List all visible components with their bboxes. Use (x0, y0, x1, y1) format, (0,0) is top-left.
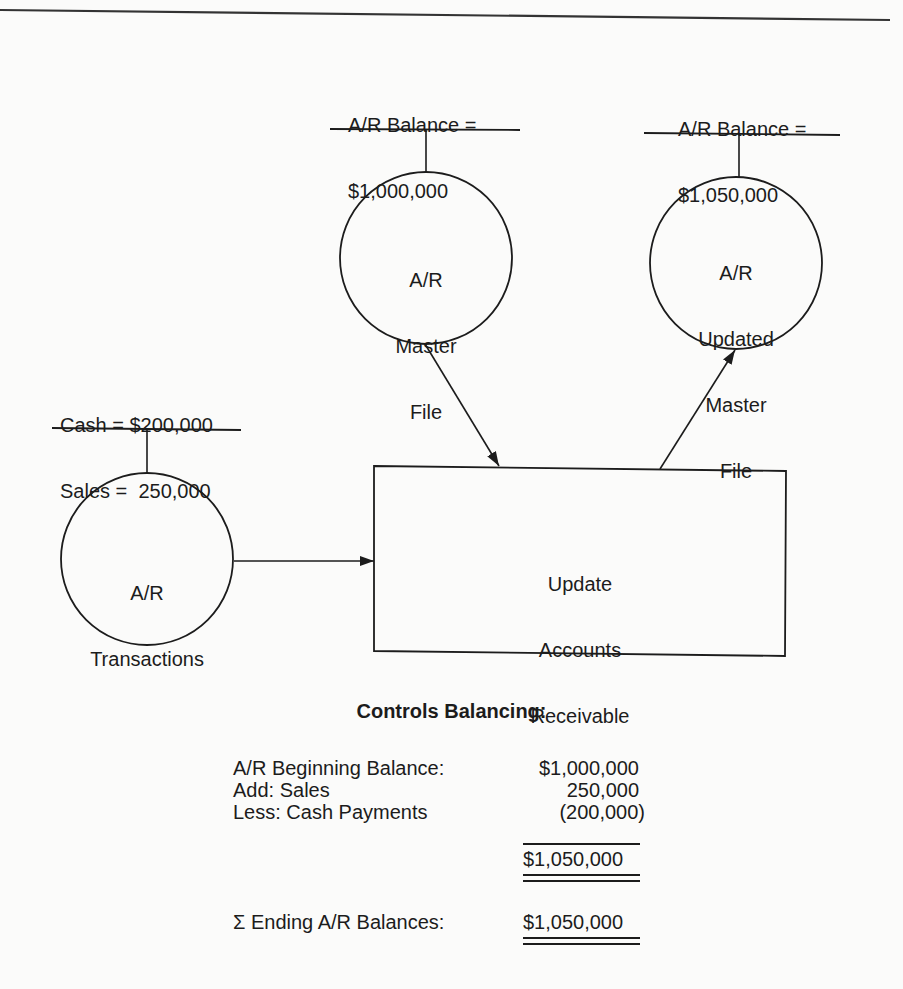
row-value: $1,000,000 (499, 757, 639, 779)
annotation-line-2: $1,050,000 (678, 184, 806, 206)
ending-double-rule (523, 937, 640, 945)
subtotal-double-rule (523, 874, 640, 882)
subtotal-value: $1,050,000 (523, 848, 623, 870)
updated-file-balance-annotation: A/R Balance = $1,050,000 (678, 74, 806, 228)
transactions-totals-annotation: Cash = $200,000 Sales = 250,000 (60, 370, 213, 524)
row-value: (200,000) (505, 801, 645, 823)
annotation-line-1: Cash = $200,000 (60, 414, 213, 436)
row-label: Add: Sales (233, 779, 330, 801)
annotation-line-2: Sales = 250,000 (60, 480, 213, 502)
master-file-label: A/R Master File (366, 225, 486, 445)
annotation-line-1: A/R Balance = (348, 114, 476, 136)
updated-file-label: A/R Updated Master File (676, 218, 796, 504)
transactions-label: A/R Transactions (77, 538, 217, 692)
annotation-line-2: $1,000,000 (348, 180, 476, 202)
row-label: Less: Cash Payments (233, 801, 428, 823)
master-file-balance-annotation: A/R Balance = $1,000,000 (348, 70, 476, 224)
controls-heading: Controls Balancing: (0, 700, 903, 723)
annotation-line-1: A/R Balance = (678, 118, 806, 140)
ending-balances-value: $1,050,000 (523, 911, 623, 933)
page-top-rule (0, 10, 890, 20)
row-value: 250,000 (499, 779, 639, 801)
subtotal-rule (523, 843, 640, 845)
row-label: A/R Beginning Balance: (233, 757, 444, 779)
ending-balances-label: Σ Ending A/R Balances: (233, 911, 444, 933)
